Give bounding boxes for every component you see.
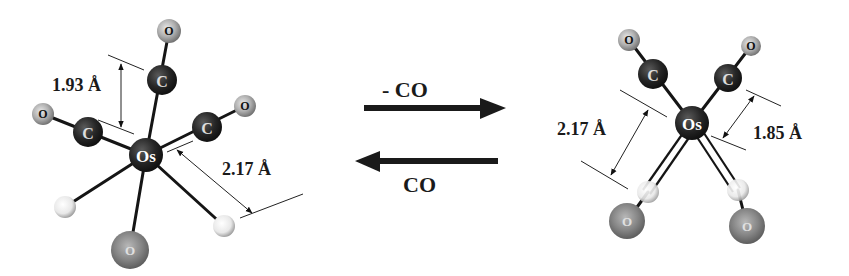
oxygen-atom: O bbox=[618, 29, 640, 51]
left-distance-label-1: 1.93 Å bbox=[52, 75, 101, 95]
carbon-atom: C bbox=[638, 59, 668, 89]
svg-text:O: O bbox=[240, 99, 249, 113]
right-distance-label-1: 2.17 Å bbox=[557, 119, 606, 139]
svg-text:O: O bbox=[622, 214, 632, 229]
carbon-atom: C bbox=[192, 112, 222, 142]
oxygen-atom: O bbox=[157, 19, 181, 43]
svg-text:O: O bbox=[742, 219, 752, 234]
left-distance-label-2: 2.17 Å bbox=[222, 159, 271, 179]
reaction-arrows: - CO CO bbox=[355, 77, 506, 197]
osmium-atom: Os bbox=[675, 106, 709, 140]
oxygen-atom-large: O bbox=[609, 203, 645, 239]
reaction-diagram: 1.93 Å 2.17 Å O C O C O bbox=[0, 0, 849, 276]
reverse-label: CO bbox=[403, 172, 436, 197]
osmium-atom: Os bbox=[129, 138, 163, 172]
svg-text:O: O bbox=[38, 107, 47, 121]
svg-text:C: C bbox=[82, 125, 94, 142]
carbon-atom: C bbox=[147, 65, 177, 95]
hydrogen-atom bbox=[727, 179, 749, 201]
oxygen-atom: O bbox=[234, 95, 256, 117]
forward-label: - CO bbox=[382, 77, 428, 102]
oxygen-atom: O bbox=[741, 36, 761, 56]
right-distance-label-2: 1.85 Å bbox=[753, 123, 802, 143]
reverse-arrow bbox=[355, 151, 498, 172]
carbon-atom: C bbox=[714, 64, 742, 92]
right-molecule: 2.17 Å 1.85 Å O C O C bbox=[557, 29, 802, 244]
left-distance-marker-2 bbox=[167, 141, 303, 218]
svg-text:O: O bbox=[164, 24, 173, 38]
svg-text:C: C bbox=[722, 71, 734, 88]
hydrogen-atom bbox=[54, 196, 76, 218]
oxygen-atom-large: O bbox=[729, 208, 765, 244]
left-molecule: 1.93 Å 2.17 Å O C O C O bbox=[32, 19, 303, 269]
left-distance-marker-1 bbox=[98, 55, 144, 134]
hydrogen-atom bbox=[637, 181, 659, 203]
oxygen-atom: O bbox=[32, 103, 54, 125]
svg-text:O: O bbox=[125, 243, 135, 258]
oxygen-atom-large: O bbox=[111, 231, 149, 269]
svg-text:C: C bbox=[156, 73, 168, 90]
hydrogen-atom bbox=[213, 215, 235, 237]
svg-text:O: O bbox=[746, 39, 755, 53]
svg-text:O: O bbox=[624, 33, 633, 47]
svg-text:Os: Os bbox=[682, 115, 702, 134]
svg-text:C: C bbox=[201, 120, 213, 137]
svg-text:Os: Os bbox=[136, 147, 156, 166]
svg-text:C: C bbox=[647, 67, 659, 84]
carbon-atom: C bbox=[73, 117, 103, 147]
